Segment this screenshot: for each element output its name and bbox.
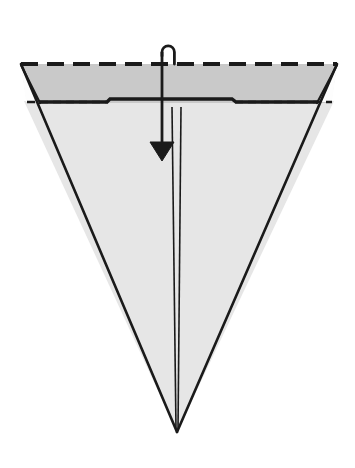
origami-figure — [0, 0, 355, 468]
folded-top-band-shape — [21, 64, 337, 103]
origami-diagram-root — [0, 0, 355, 468]
